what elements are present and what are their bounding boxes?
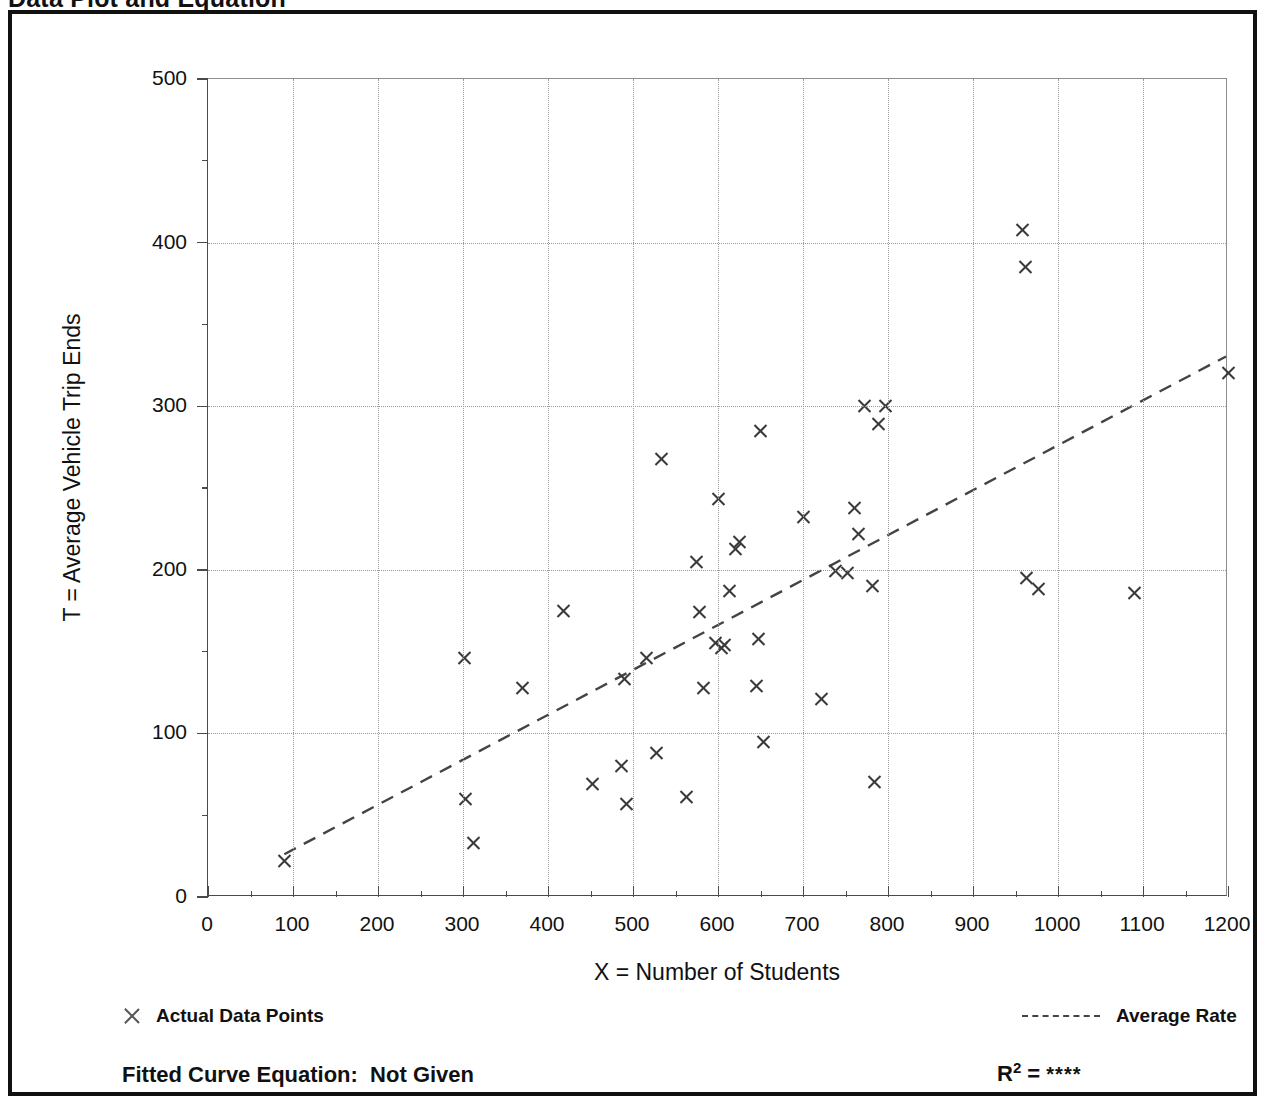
x-marker-icon bbox=[122, 1006, 142, 1026]
x-tick-major bbox=[378, 886, 379, 897]
x-tick-label: 1200 bbox=[1204, 912, 1251, 936]
x-tick-minor bbox=[1101, 891, 1102, 897]
legend-label-average-rate: Average Rate bbox=[1116, 1005, 1237, 1026]
y-tick-major bbox=[197, 242, 208, 243]
x-tick-label: 700 bbox=[784, 912, 819, 936]
plot-area bbox=[207, 78, 1227, 896]
x-tick-label: 1100 bbox=[1119, 912, 1164, 936]
x-tick-minor bbox=[931, 891, 932, 897]
y-tick-label: 100 bbox=[152, 720, 187, 744]
x-tick-label: 0 bbox=[201, 912, 213, 936]
x-tick-major bbox=[208, 886, 209, 897]
y-tick-minor bbox=[202, 487, 208, 488]
x-tick-label: 100 bbox=[274, 912, 309, 936]
y-tick-major bbox=[197, 78, 208, 79]
x-axis-title: X = Number of Students bbox=[207, 959, 1227, 986]
x-tick-minor bbox=[676, 891, 677, 897]
x-tick-major bbox=[293, 886, 294, 897]
x-tick-label: 600 bbox=[699, 912, 734, 936]
y-axis-title: T = Average Vehicle Trip Ends bbox=[59, 148, 86, 788]
x-tick-major bbox=[1058, 886, 1059, 897]
x-tick-minor bbox=[1016, 891, 1017, 897]
fitted-curve-equation: Fitted Curve Equation: Not Given bbox=[122, 1062, 474, 1088]
x-tick-major bbox=[1228, 886, 1229, 897]
y-tick-label: 0 bbox=[175, 884, 187, 908]
x-tick-minor bbox=[336, 891, 337, 897]
x-tick-label: 800 bbox=[869, 912, 904, 936]
x-tick-label: 500 bbox=[614, 912, 649, 936]
dashed-line-icon bbox=[1022, 1015, 1100, 1017]
x-tick-label: 300 bbox=[444, 912, 479, 936]
x-tick-major bbox=[548, 886, 549, 897]
x-tick-minor bbox=[251, 891, 252, 897]
y-tick-label: 300 bbox=[152, 393, 187, 417]
y-tick-major bbox=[197, 569, 208, 570]
x-tick-label: 900 bbox=[954, 912, 989, 936]
legend-item-average-rate: Average Rate bbox=[1022, 1005, 1237, 1027]
average-rate-trend-line bbox=[208, 79, 1226, 895]
y-tick-major bbox=[197, 406, 208, 407]
x-tick-minor bbox=[506, 891, 507, 897]
y-tick-minor bbox=[202, 651, 208, 652]
y-tick-minor bbox=[202, 815, 208, 816]
y-tick-label: 500 bbox=[152, 66, 187, 90]
y-tick-major bbox=[197, 896, 208, 897]
x-tick-label: 400 bbox=[529, 912, 564, 936]
y-tick-minor bbox=[202, 160, 208, 161]
r2-symbol: R bbox=[997, 1061, 1013, 1086]
y-tick-label: 200 bbox=[152, 557, 187, 581]
legend-item-actual-data-points: Actual Data Points bbox=[122, 1005, 324, 1027]
x-tick-minor bbox=[421, 891, 422, 897]
y-tick-label: 400 bbox=[152, 230, 187, 254]
x-tick-minor bbox=[846, 891, 847, 897]
x-tick-label: 1000 bbox=[1034, 912, 1081, 936]
x-tick-minor bbox=[761, 891, 762, 897]
x-tick-major bbox=[973, 886, 974, 897]
y-tick-major bbox=[197, 733, 208, 734]
x-tick-label: 200 bbox=[359, 912, 394, 936]
figure-frame: X = Number of Students T = Average Vehic… bbox=[8, 10, 1257, 1096]
y-tick-minor bbox=[202, 324, 208, 325]
x-tick-major bbox=[463, 886, 464, 897]
x-tick-minor bbox=[591, 891, 592, 897]
r-squared-annotation: R2 = **** bbox=[997, 1059, 1081, 1087]
legend-label-actual-data-points: Actual Data Points bbox=[156, 1005, 324, 1026]
x-tick-major bbox=[803, 886, 804, 897]
x-tick-minor bbox=[1186, 891, 1187, 897]
r2-exponent: 2 bbox=[1013, 1059, 1021, 1076]
x-tick-major bbox=[633, 886, 634, 897]
r2-equals: = bbox=[1021, 1061, 1046, 1086]
x-tick-major bbox=[888, 886, 889, 897]
r2-value: **** bbox=[1046, 1063, 1081, 1085]
x-tick-major bbox=[1143, 886, 1144, 897]
x-tick-major bbox=[718, 886, 719, 897]
